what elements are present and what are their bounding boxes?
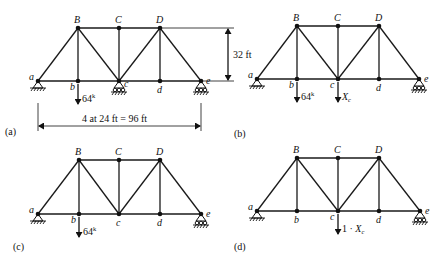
panel-label-c: (c) <box>13 241 24 253</box>
joint-b <box>295 77 300 82</box>
joint-c <box>117 79 122 84</box>
panel-label-a: (a) <box>5 126 16 138</box>
joint-d <box>158 79 163 84</box>
node-label-c: c <box>330 211 335 222</box>
joint-C <box>336 156 341 161</box>
joint-b <box>76 79 81 84</box>
member-aB <box>38 28 78 81</box>
joint-e <box>418 209 423 214</box>
node-label-b: b <box>70 81 75 92</box>
joint-a <box>255 209 260 214</box>
node-label-b: b <box>294 214 299 225</box>
member-aB <box>257 158 297 211</box>
load-arrow-icon: 64k <box>297 82 315 102</box>
node-label-e: e <box>206 208 211 219</box>
load-arrow-icon: Xc <box>338 82 351 103</box>
node-label-C: C <box>334 12 341 23</box>
joint-c <box>336 209 341 214</box>
load-label: 64k <box>83 225 97 237</box>
node-label-b: b <box>71 214 76 225</box>
node-label-B: B <box>74 14 80 25</box>
node-label-e: e <box>425 205 430 216</box>
joint-d <box>158 212 163 217</box>
node-label-e: e <box>424 73 429 84</box>
joint-B <box>77 158 82 163</box>
load-arrow-icon: 64k <box>78 84 96 104</box>
member-aB <box>38 160 79 214</box>
load-label: 1 · Xc <box>342 223 364 235</box>
node-label-D: D <box>155 14 164 25</box>
load-label: 64k <box>82 92 96 104</box>
joint-b <box>295 209 300 214</box>
member-Bc <box>78 28 119 81</box>
node-label-B: B <box>293 12 299 23</box>
node-label-C: C <box>334 144 341 155</box>
member-De <box>160 160 201 214</box>
joint-C <box>117 26 122 31</box>
member-cD <box>119 160 160 214</box>
node-label-C: C <box>115 146 122 157</box>
truss-figure: abcdeBCD64k(a)abcdeBCD64kXc(b)abcdeBCD64… <box>0 0 445 264</box>
member-Bc <box>79 160 119 214</box>
joint-B <box>295 24 300 29</box>
load-arrow-icon: 64k <box>79 217 97 237</box>
joint-c <box>117 212 122 217</box>
joint-b <box>77 212 82 217</box>
joint-c <box>336 77 341 82</box>
joint-D <box>377 24 382 29</box>
member-De <box>379 26 419 79</box>
joint-B <box>76 26 81 31</box>
load-label: 64k <box>301 90 315 102</box>
node-label-d: d <box>157 84 163 95</box>
truss-panel-b: abcdeBCD64kXc(b) <box>234 12 429 140</box>
truss-panel-d: abcdeBCD1 · Xc(d) <box>234 144 430 253</box>
node-label-e: e <box>206 75 211 86</box>
member-cD <box>338 26 379 79</box>
node-label-D: D <box>374 144 383 155</box>
joint-e <box>417 77 422 82</box>
node-label-b: b <box>289 79 294 90</box>
joint-D <box>377 156 382 161</box>
dimensions: 32 ft4 at 24 ft = 96 ft <box>38 28 252 131</box>
member-aB <box>257 26 297 79</box>
node-label-c: c <box>330 79 335 90</box>
joint-B <box>295 156 300 161</box>
node-label-a: a <box>29 204 34 215</box>
panel-label-d: (d) <box>234 241 246 253</box>
member-De <box>379 158 420 211</box>
node-label-d: d <box>376 214 382 225</box>
node-label-a: a <box>248 201 253 212</box>
member-De <box>160 28 201 81</box>
load-label: Xc <box>341 91 351 103</box>
node-label-c: c <box>116 217 121 228</box>
joint-a <box>36 212 41 217</box>
node-label-D: D <box>155 146 164 157</box>
member-cD <box>119 28 160 81</box>
member-Bc <box>297 26 338 79</box>
node-label-B: B <box>293 144 299 155</box>
node-label-c: c <box>124 78 129 89</box>
truss-panels: abcdeBCD64k(a)abcdeBCD64kXc(b)abcdeBCD64… <box>5 12 430 253</box>
joint-d <box>377 77 382 82</box>
node-label-C: C <box>115 14 122 25</box>
node-label-d: d <box>157 217 163 228</box>
member-Bc <box>297 158 338 211</box>
node-label-a: a <box>29 71 34 82</box>
joint-d <box>377 209 382 214</box>
joint-a <box>36 79 41 84</box>
member-cD <box>338 158 379 211</box>
joint-e <box>199 212 204 217</box>
joint-C <box>117 158 122 163</box>
span-dimension-label: 4 at 24 ft = 96 ft <box>82 113 147 124</box>
height-dimension-label: 32 ft <box>233 49 252 60</box>
node-label-B: B <box>75 146 81 157</box>
joint-a <box>255 77 260 82</box>
node-label-d: d <box>376 82 382 93</box>
panel-label-b: (b) <box>234 128 246 140</box>
load-arrow-icon: 1 · Xc <box>338 214 364 235</box>
node-label-D: D <box>374 12 383 23</box>
node-label-a: a <box>248 69 253 80</box>
joint-C <box>336 24 341 29</box>
truss-panel-c: abcdeBCD64k(c) <box>13 146 211 253</box>
joint-D <box>158 158 163 163</box>
